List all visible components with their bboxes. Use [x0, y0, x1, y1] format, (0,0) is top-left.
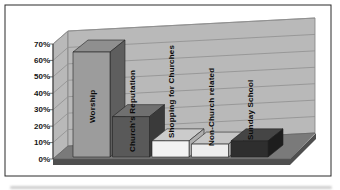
category-label-sunday-school: Sunday School [246, 80, 255, 140]
y-tick-label: 10% [34, 138, 50, 147]
scan-smudge [10, 186, 332, 189]
category-label-shopping-for-churches: Shopping for Churches [167, 45, 176, 138]
category-label-worship: Worship [88, 90, 97, 123]
bar-chart-3d: 0% 10% 20% 30% 40% 50% 60% 70% Worship C… [0, 0, 340, 190]
category-label-non-church-related: Non-Church related [207, 68, 216, 146]
y-tick-label: 40% [34, 89, 50, 98]
left-wall [53, 31, 68, 159]
y-tick-label: 70% [34, 40, 50, 49]
y-tick-label: 50% [34, 72, 50, 81]
chart-image: 0% 10% 20% 30% 40% 50% 60% 70% Worship C… [0, 0, 340, 190]
bar-front-face [152, 141, 189, 157]
category-label-churchs-reputation: Church's Reputation [128, 70, 137, 152]
y-tick-label: 20% [34, 122, 50, 131]
y-tick-label: 30% [34, 105, 50, 114]
bar-front-face [231, 141, 268, 157]
y-tick-label: 60% [34, 56, 50, 65]
y-tick-label: 0% [38, 155, 50, 164]
